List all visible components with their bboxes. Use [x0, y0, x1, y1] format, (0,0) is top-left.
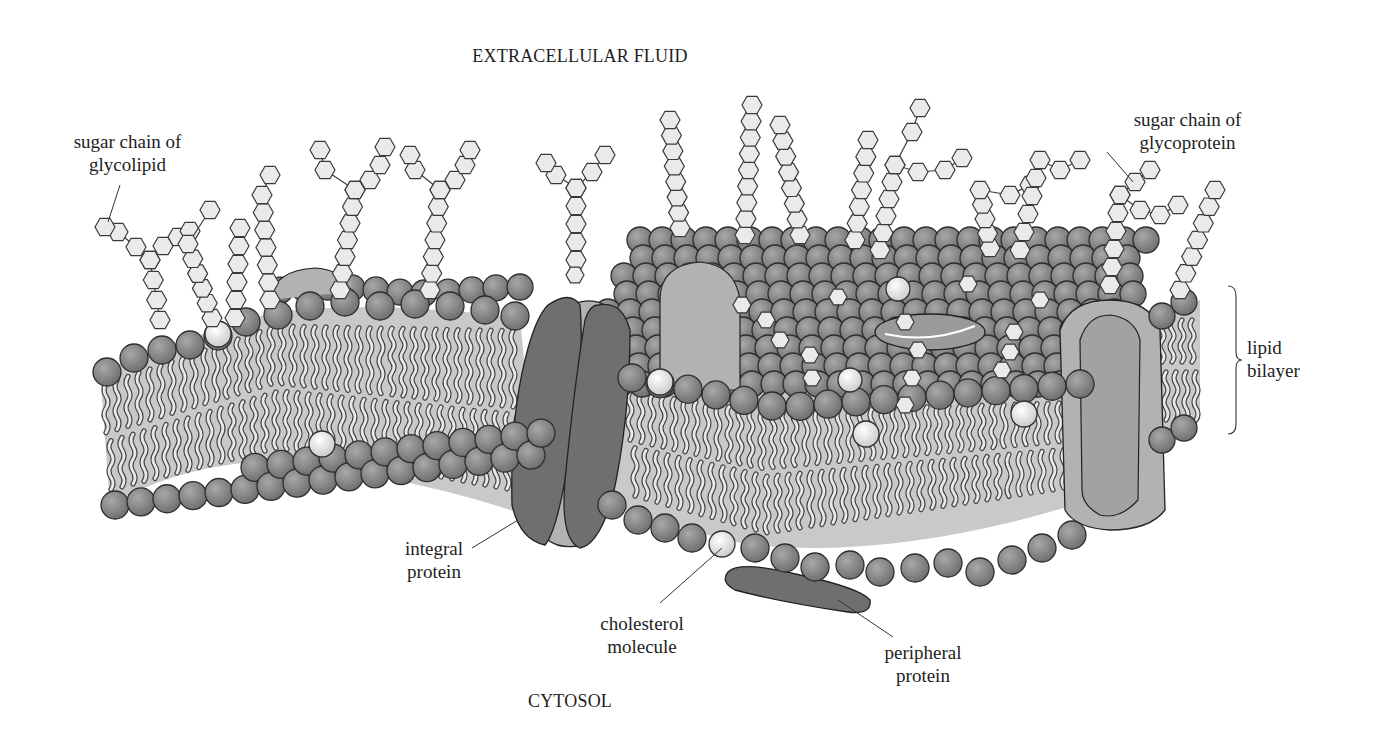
label-line: protein [384, 560, 484, 583]
label-line: peripheral [868, 641, 978, 664]
label-lipid-bilayer: lipid bilayer [1247, 336, 1337, 382]
label-sugar-chain-glycolipid: sugar chain of glycolipid [55, 130, 200, 176]
region-label-cytosol: CYTOSOL [500, 690, 640, 713]
label-line: bilayer [1247, 359, 1337, 382]
region-label-extracellular: EXTRACELLULAR FLUID [430, 45, 730, 68]
label-integral-protein: integral protein [384, 537, 484, 583]
label-line: integral [384, 537, 484, 560]
label-cholesterol-molecule: cholesterol molecule [582, 612, 702, 658]
label-line: sugar chain of [55, 130, 200, 153]
leader-line-sugar-chain-glycoprotein [1107, 152, 1133, 182]
label-line: lipid [1247, 336, 1337, 359]
label-line: molecule [582, 635, 702, 658]
label-line: cholesterol [582, 612, 702, 635]
label-line: sugar chain of [1110, 108, 1265, 131]
label-line: glycoprotein [1110, 131, 1265, 154]
label-peripheral-protein: peripheral protein [868, 641, 978, 687]
label-sugar-chain-glycoprotein: sugar chain of glycoprotein [1110, 108, 1265, 154]
bilayer-bracket [1228, 286, 1242, 434]
label-line: protein [868, 664, 978, 687]
leader-line-cholesterol-molecule [660, 548, 722, 603]
leader-line-sugar-chain-glycolipid [108, 185, 120, 222]
label-line: glycolipid [55, 153, 200, 176]
cell-membrane-diagram: EXTRACELLULAR FLUID CYTOSOL sugar chain … [0, 0, 1376, 749]
